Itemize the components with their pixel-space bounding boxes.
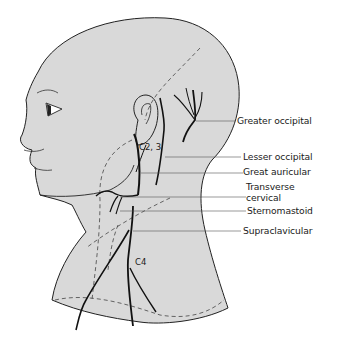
label-great-auricular: Great auricular <box>243 166 311 177</box>
label-c4: C4 <box>135 257 146 267</box>
head-neck-silhouette <box>20 18 239 323</box>
label-lesser-occipital: Lesser occipital <box>243 151 312 162</box>
label-supraclavicular: Supraclavicular <box>243 225 312 236</box>
label-c2-3: C2, 3 <box>139 142 161 152</box>
label-transverse-cervical-line1: Transverse <box>246 181 295 192</box>
label-sternomastoid: Sternomastoid <box>247 205 313 216</box>
label-greater-occipital: Greater occipital <box>237 115 312 126</box>
label-transverse-cervical-line2: cervical <box>246 192 281 203</box>
